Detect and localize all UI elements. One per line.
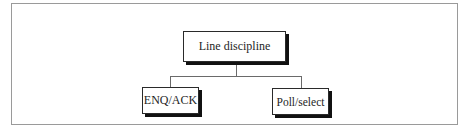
node-line-discipline: Line discipline: [183, 31, 286, 62]
diagram-frame: [11, 3, 458, 125]
node-label: ENQ/ACK: [144, 93, 197, 108]
node-enq-ack: ENQ/ACK: [142, 87, 199, 114]
node-poll-select: Poll/select: [272, 88, 329, 115]
node-label: Line discipline: [199, 39, 271, 54]
connector-root-stem: [236, 65, 237, 76]
node-label: Poll/select: [277, 96, 325, 108]
connector-left-branch: [170, 76, 171, 87]
connector-branch-bar: [170, 76, 302, 77]
connector-right-branch: [301, 76, 302, 88]
